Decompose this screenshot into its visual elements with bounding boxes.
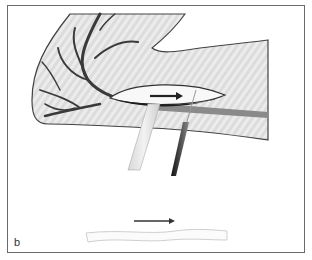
illustration [0,0,312,260]
panel-label: b [14,236,20,248]
harvested-vessel-segment [86,229,227,242]
direction-arrow-icon [134,218,175,224]
